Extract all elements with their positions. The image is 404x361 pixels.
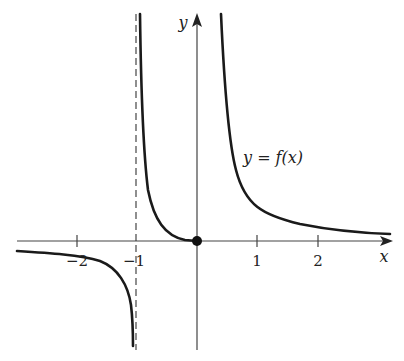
tick-label-minus-1: −1 — [123, 252, 145, 270]
curve-right-branch — [221, 14, 390, 234]
tick-label-minus-2: −2 — [66, 252, 88, 270]
x-axis-label: x — [379, 247, 388, 266]
curve-label: y = f(x) — [242, 148, 303, 167]
curve-middle-branch — [140, 14, 197, 241]
y-axis-label: y — [177, 13, 188, 32]
origin-point — [192, 236, 202, 246]
function-graph: −2 −1 1 2 x y y = f(x) — [0, 0, 404, 361]
tick-label-1: 1 — [252, 252, 262, 270]
tick-label-2: 2 — [313, 252, 323, 270]
